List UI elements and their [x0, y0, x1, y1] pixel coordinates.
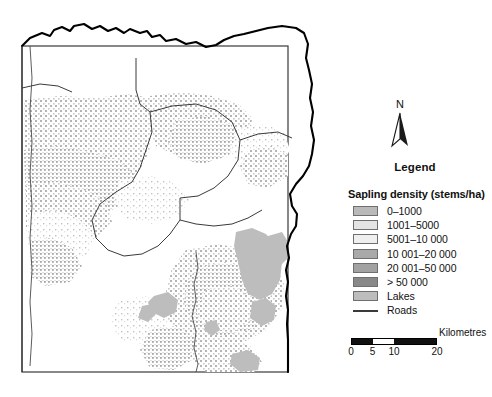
north-arrow: N	[383, 96, 417, 150]
legend-row: 1001–5000	[348, 218, 492, 232]
north-arrow-left-wing	[392, 113, 400, 146]
legend-label: Roads	[387, 304, 417, 316]
legend-row: 20 001–50 000	[348, 261, 492, 275]
map-canvas	[0, 0, 345, 397]
legend-row: 10 001–20 000	[348, 247, 492, 261]
scalebar-tick-label: 5	[370, 346, 376, 357]
legend-row: Lakes	[348, 289, 492, 303]
legend-label: 1001–5000	[387, 219, 439, 231]
map-figure: N Legend Sapling density (stems/ha) 0–10…	[0, 0, 492, 397]
scalebar-segment	[373, 339, 394, 344]
map-marginalia-panel: N Legend Sapling density (stems/ha) 0–10…	[345, 0, 492, 397]
legend-label: Lakes	[387, 290, 415, 302]
north-arrow-icon: N	[383, 96, 417, 150]
legend-color-swatch	[353, 277, 378, 287]
legend-line-swatch	[353, 305, 378, 315]
scalebar-ticks: 051020	[351, 346, 471, 359]
legend-items: 0–10001001–50005001–10 00010 001–20 0002…	[348, 204, 492, 318]
legend: Sapling density (stems/ha) 0–10001001–50…	[348, 188, 492, 318]
legend-row: Roads	[348, 303, 492, 317]
legend-label: 0–1000	[387, 205, 422, 217]
legend-color-swatch	[353, 220, 378, 230]
legend-row: 5001–10 000	[348, 232, 492, 246]
scalebar-tick-label: 20	[431, 346, 442, 357]
legend-color-swatch	[353, 263, 378, 273]
legend-label: 10 001–20 000	[387, 248, 456, 260]
legend-label: 5001–10 000	[387, 233, 448, 245]
north-arrow-label: N	[396, 98, 404, 110]
scalebar-bar	[351, 338, 437, 345]
scalebar-segment	[394, 339, 436, 344]
north-arrow-right-wing	[400, 113, 408, 146]
legend-label: > 50 000	[387, 276, 428, 288]
legend-color-swatch	[353, 249, 378, 259]
legend-color-swatch	[353, 234, 378, 244]
legend-color-swatch	[353, 206, 378, 216]
scalebar-tick-label: 0	[348, 346, 354, 357]
map-panel	[0, 0, 345, 397]
scalebar-tick-label: 10	[388, 346, 399, 357]
legend-color-swatch	[353, 291, 378, 301]
scalebar-segment	[352, 339, 373, 344]
legend-heading: Sapling density (stems/ha)	[348, 188, 492, 200]
legend-label: 20 001–50 000	[387, 262, 456, 274]
scalebar-caption: Kilometres	[439, 327, 486, 338]
legend-row: 0–1000	[348, 204, 492, 218]
legend-row: > 50 000	[348, 275, 492, 289]
legend-title: Legend	[345, 161, 485, 173]
